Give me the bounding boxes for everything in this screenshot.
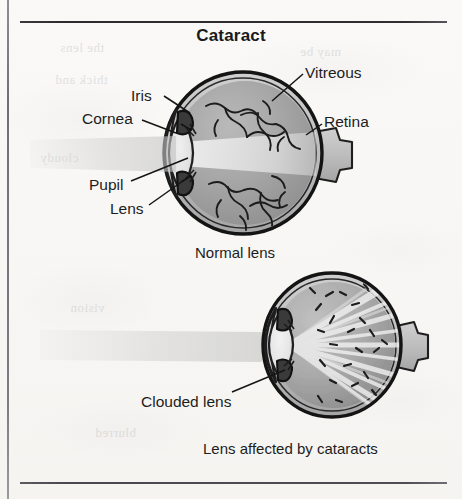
normal-eye-diagram — [30, 72, 352, 234]
caption-cataract-lens: Lens affected by cataracts — [203, 440, 378, 457]
caption-normal-lens: Normal lens — [195, 244, 275, 261]
cataract-eye-diagram — [40, 272, 428, 417]
label-cornea: Cornea — [82, 110, 133, 128]
incoming-light-beam — [30, 136, 176, 172]
label-pupil: Pupil — [89, 176, 123, 194]
label-clouded-lens: Clouded lens — [141, 393, 231, 411]
label-retina: Retina — [324, 113, 369, 131]
label-lens: Lens — [110, 200, 144, 218]
label-vitreous: Vitreous — [305, 64, 362, 82]
scanned-page: the lens may be thick and cloudy vision … — [0, 0, 462, 499]
label-iris: Iris — [131, 87, 152, 105]
incoming-light-beam-cataract — [40, 330, 262, 362]
